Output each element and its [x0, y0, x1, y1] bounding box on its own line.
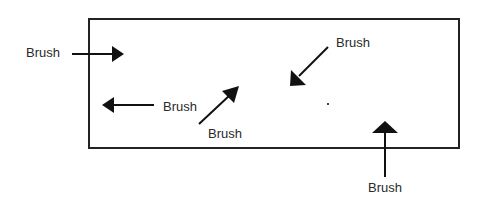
arrow-right-icon	[72, 46, 124, 62]
arrow-shaft	[299, 47, 328, 76]
arrow-head	[112, 46, 124, 62]
brush-label-right: Brush	[26, 45, 60, 60]
surface-frame	[89, 19, 459, 148]
brush-label-down-left: Brush	[336, 35, 370, 50]
diagram-canvas	[0, 0, 495, 206]
marks-layer	[327, 103, 329, 105]
brush-label-up: Brush	[368, 180, 402, 195]
brush-label-up-right: Brush	[208, 126, 242, 141]
brush-label-left: Brush	[163, 99, 197, 114]
arrows-layer	[72, 46, 398, 177]
arrow-shaft	[199, 95, 230, 124]
brush-direction-diagram: Brush Brush Brush Brush Brush	[0, 0, 495, 206]
arrow-head	[372, 121, 398, 133]
arrow-up-right-icon	[199, 86, 239, 124]
arrow-left-icon	[102, 97, 154, 113]
arrow-down-left-icon	[290, 47, 328, 86]
arrow-head	[102, 97, 114, 113]
speck-mark	[327, 103, 329, 105]
